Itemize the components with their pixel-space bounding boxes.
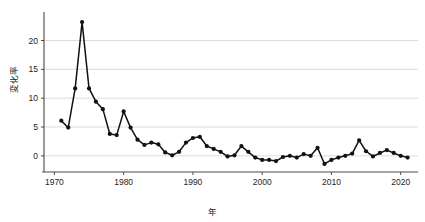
- data-point-marker: [87, 86, 91, 90]
- data-point-marker: [163, 150, 167, 154]
- data-point-marker: [191, 136, 195, 140]
- data-point-marker: [378, 151, 382, 155]
- data-point-marker: [260, 158, 264, 162]
- data-point-marker: [170, 153, 174, 157]
- y-axis-tick-label: 5: [33, 122, 38, 132]
- data-point-marker: [399, 154, 403, 158]
- data-point-marker: [281, 155, 285, 159]
- data-point-marker: [101, 107, 105, 111]
- data-point-marker: [232, 153, 236, 157]
- data-point-marker: [59, 119, 63, 123]
- data-point-marker: [149, 140, 153, 144]
- chart-container: 05101520197019801990200020102020 変化率 年: [0, 0, 425, 222]
- data-point-marker: [239, 144, 243, 148]
- y-axis-title: 変化率: [7, 66, 19, 93]
- data-point-marker: [219, 150, 223, 154]
- y-axis-tick-label: 0: [33, 151, 38, 161]
- data-series-line: [61, 22, 407, 164]
- data-point-marker: [309, 154, 313, 158]
- x-axis-tick-label: 1980: [114, 177, 133, 187]
- data-point-marker: [322, 162, 326, 166]
- data-point-marker: [156, 142, 160, 146]
- data-point-marker: [225, 154, 229, 158]
- data-point-marker: [343, 154, 347, 158]
- x-axis-tick-label: 1970: [45, 177, 64, 187]
- data-point-marker: [80, 20, 84, 24]
- x-axis-title: 年: [0, 205, 425, 217]
- data-point-marker: [115, 133, 119, 137]
- data-point-marker: [135, 138, 139, 142]
- x-axis-tick-label: 2020: [391, 177, 410, 187]
- x-axis-tick-label: 1990: [183, 177, 202, 187]
- data-point-marker: [205, 144, 209, 148]
- data-point-marker: [267, 158, 271, 162]
- y-axis-tick-label: 10: [29, 93, 39, 103]
- data-point-marker: [392, 151, 396, 155]
- data-point-marker: [246, 150, 250, 154]
- data-point-marker: [350, 151, 354, 155]
- data-point-marker: [108, 132, 112, 136]
- data-point-marker: [274, 159, 278, 163]
- data-point-marker: [315, 146, 319, 150]
- data-point-marker: [66, 126, 70, 130]
- data-point-marker: [128, 126, 132, 130]
- data-point-marker: [253, 155, 257, 159]
- data-point-marker: [73, 86, 77, 90]
- x-axis-tick-label: 2000: [253, 177, 272, 187]
- data-point-marker: [295, 155, 299, 159]
- data-point-marker: [302, 152, 306, 156]
- data-point-marker: [198, 135, 202, 139]
- data-point-marker: [364, 149, 368, 153]
- data-point-marker: [329, 158, 333, 162]
- data-point-marker: [336, 155, 340, 159]
- data-point-marker: [94, 100, 98, 104]
- data-point-marker: [288, 154, 292, 158]
- data-point-marker: [357, 138, 361, 142]
- data-point-marker: [212, 147, 216, 151]
- data-point-marker: [371, 154, 375, 158]
- y-axis-tick-label: 20: [29, 36, 39, 46]
- data-point-marker: [406, 155, 410, 159]
- data-point-marker: [122, 109, 126, 113]
- data-point-marker: [177, 150, 181, 154]
- data-point-marker: [142, 143, 146, 147]
- data-point-marker: [184, 140, 188, 144]
- x-axis-tick-label: 2010: [322, 177, 341, 187]
- y-axis-tick-label: 15: [29, 64, 39, 74]
- data-point-marker: [385, 148, 389, 152]
- line-chart-plot: 05101520197019801990200020102020: [0, 0, 425, 222]
